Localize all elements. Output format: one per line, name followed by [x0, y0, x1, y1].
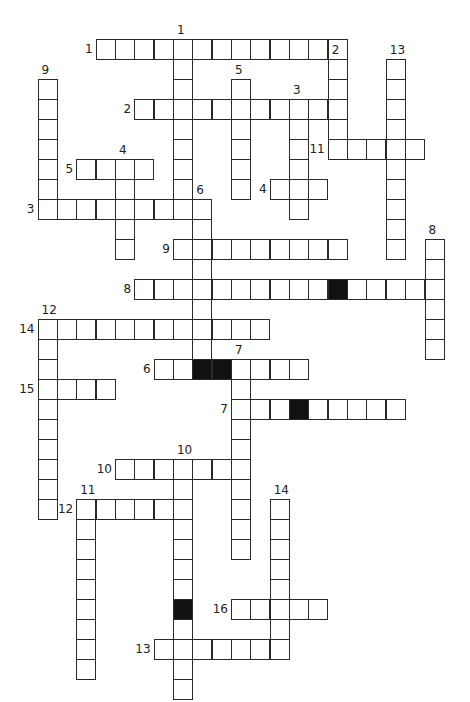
crossword-cell[interactable] — [212, 319, 232, 340]
crossword-cell[interactable] — [134, 99, 154, 120]
crossword-cell[interactable] — [76, 599, 96, 620]
crossword-cell[interactable] — [308, 99, 328, 120]
crossword-cell[interactable] — [76, 579, 96, 600]
crossword-cell[interactable] — [231, 239, 251, 260]
crossword-cell[interactable] — [173, 479, 193, 500]
crossword-cell[interactable] — [425, 259, 445, 280]
crossword-cell[interactable] — [173, 239, 193, 260]
crossword-cell[interactable] — [308, 239, 328, 260]
crossword-cell[interactable] — [270, 579, 290, 600]
crossword-cell[interactable] — [38, 499, 58, 520]
crossword-cell[interactable] — [212, 279, 232, 300]
crossword-cell[interactable] — [405, 279, 425, 300]
crossword-cell[interactable] — [270, 559, 290, 580]
crossword-cell[interactable] — [289, 239, 309, 260]
crossword-cell[interactable] — [115, 39, 135, 60]
crossword-cell[interactable] — [386, 239, 406, 260]
crossword-cell[interactable] — [173, 119, 193, 140]
crossword-cell[interactable] — [154, 359, 174, 380]
crossword-cell[interactable] — [38, 79, 58, 100]
crossword-cell[interactable] — [134, 459, 154, 480]
crossword-cell[interactable] — [115, 179, 135, 200]
crossword-cell[interactable] — [38, 459, 58, 480]
crossword-cell[interactable] — [115, 319, 135, 340]
crossword-cell[interactable] — [425, 339, 445, 360]
crossword-cell[interactable] — [173, 39, 193, 60]
crossword-cell[interactable] — [154, 459, 174, 480]
crossword-cell[interactable] — [328, 399, 348, 420]
crossword-cell[interactable] — [250, 599, 270, 620]
crossword-cell[interactable] — [134, 279, 154, 300]
crossword-cell[interactable] — [270, 599, 290, 620]
crossword-cell[interactable] — [231, 179, 251, 200]
crossword-cell[interactable] — [38, 139, 58, 160]
crossword-cell[interactable] — [425, 279, 445, 300]
crossword-cell[interactable] — [270, 619, 290, 640]
crossword-cell[interactable] — [270, 99, 290, 120]
crossword-cell[interactable] — [96, 379, 116, 400]
crossword-cell[interactable] — [386, 99, 406, 120]
crossword-cell[interactable] — [250, 239, 270, 260]
crossword-cell[interactable] — [115, 199, 135, 220]
crossword-cell[interactable] — [57, 379, 77, 400]
crossword-cell[interactable] — [57, 199, 77, 220]
crossword-cell[interactable] — [347, 399, 367, 420]
crossword-cell[interactable] — [173, 659, 193, 680]
crossword-cell[interactable] — [250, 359, 270, 380]
crossword-cell[interactable] — [212, 459, 232, 480]
crossword-cell[interactable] — [425, 319, 445, 340]
crossword-cell[interactable] — [250, 639, 270, 660]
crossword-cell[interactable] — [328, 99, 348, 120]
crossword-cell[interactable] — [231, 99, 251, 120]
crossword-cell[interactable] — [173, 499, 193, 520]
crossword-cell[interactable] — [76, 499, 96, 520]
crossword-cell[interactable] — [231, 479, 251, 500]
crossword-cell[interactable] — [212, 639, 232, 660]
crossword-cell[interactable] — [231, 79, 251, 100]
crossword-cell[interactable] — [134, 319, 154, 340]
crossword-cell[interactable] — [173, 619, 193, 640]
crossword-cell[interactable] — [173, 539, 193, 560]
crossword-cell[interactable] — [154, 319, 174, 340]
crossword-cell[interactable] — [76, 379, 96, 400]
crossword-cell[interactable] — [250, 399, 270, 420]
crossword-cell[interactable] — [289, 39, 309, 60]
crossword-cell[interactable] — [192, 459, 212, 480]
crossword-cell[interactable] — [270, 499, 290, 520]
crossword-cell[interactable] — [115, 239, 135, 260]
crossword-cell[interactable] — [173, 559, 193, 580]
crossword-cell[interactable] — [192, 299, 212, 320]
crossword-cell[interactable] — [231, 359, 251, 380]
crossword-cell[interactable] — [386, 219, 406, 240]
crossword-cell[interactable] — [231, 279, 251, 300]
crossword-cell[interactable] — [328, 119, 348, 140]
crossword-cell[interactable] — [231, 419, 251, 440]
crossword-cell[interactable] — [76, 319, 96, 340]
crossword-cell[interactable] — [289, 599, 309, 620]
crossword-cell[interactable] — [192, 339, 212, 360]
crossword-cell[interactable] — [96, 159, 116, 180]
crossword-cell[interactable] — [115, 219, 135, 240]
crossword-cell[interactable] — [96, 199, 116, 220]
crossword-cell[interactable] — [231, 459, 251, 480]
crossword-cell[interactable] — [173, 79, 193, 100]
crossword-cell[interactable] — [231, 379, 251, 400]
crossword-cell[interactable] — [347, 139, 367, 160]
crossword-cell[interactable] — [173, 519, 193, 540]
crossword-cell[interactable] — [173, 99, 193, 120]
crossword-cell[interactable] — [250, 319, 270, 340]
crossword-cell[interactable] — [134, 159, 154, 180]
crossword-cell[interactable] — [270, 639, 290, 660]
crossword-cell[interactable] — [270, 539, 290, 560]
crossword-cell[interactable] — [270, 399, 290, 420]
crossword-cell[interactable] — [366, 279, 386, 300]
crossword-cell[interactable] — [386, 119, 406, 140]
crossword-cell[interactable] — [270, 39, 290, 60]
crossword-cell[interactable] — [405, 139, 425, 160]
crossword-cell[interactable] — [386, 59, 406, 80]
crossword-cell[interactable] — [347, 279, 367, 300]
crossword-cell[interactable] — [231, 319, 251, 340]
crossword-cell[interactable] — [270, 279, 290, 300]
crossword-cell[interactable] — [192, 239, 212, 260]
crossword-cell[interactable] — [386, 199, 406, 220]
